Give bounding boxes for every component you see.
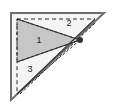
convergence-vertex-dot: [77, 37, 83, 43]
region-label-1: 1: [36, 35, 41, 45]
region-label-3: 3: [27, 64, 32, 74]
triangle-subdivision-svg: 123: [0, 0, 117, 109]
figure-container: 123: [0, 0, 117, 109]
region-label-2: 2: [66, 18, 71, 28]
